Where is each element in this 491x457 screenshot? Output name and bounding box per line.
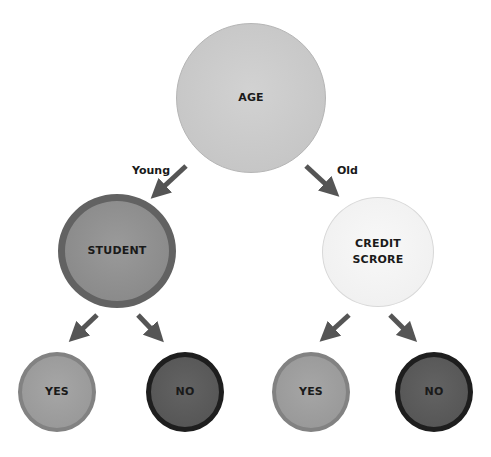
node-age: AGE	[176, 23, 326, 173]
arrow-student-yes	[76, 315, 97, 335]
edge-label-young: Young	[132, 164, 170, 177]
arrow-credit-yes	[327, 315, 349, 335]
node-credit-score: CREDIT SCRORE	[322, 197, 434, 307]
node-student: STUDENT	[58, 194, 176, 308]
node-credit-label-line2: SCRORE	[352, 252, 403, 268]
leaf-no-right: NO	[395, 352, 473, 432]
leaf-yes-right-label: YES	[299, 384, 323, 400]
leaf-yes-left: YES	[18, 352, 96, 432]
arrow-credit-no	[390, 315, 410, 335]
leaf-yes-right: YES	[272, 352, 350, 432]
edge-label-old: Old	[337, 164, 358, 177]
leaf-no-right-label: NO	[425, 384, 444, 400]
node-student-label: STUDENT	[87, 243, 146, 259]
leaf-yes-left-label: YES	[45, 384, 69, 400]
arrow-student-no	[138, 315, 157, 335]
node-age-label: AGE	[238, 90, 264, 106]
arrow-old	[306, 166, 332, 190]
leaf-no-left-label: NO	[176, 384, 195, 400]
node-credit-label-line1: CREDIT	[355, 236, 401, 252]
leaf-no-left: NO	[146, 352, 224, 432]
